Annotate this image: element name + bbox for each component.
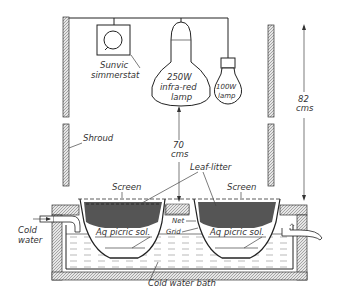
cold-water-bath-label: Cold water bath xyxy=(148,278,216,288)
shroud-label: Shroud xyxy=(83,133,114,143)
cold-water-label-line2: water xyxy=(18,235,43,245)
tullgren-funnel-apparatus-diagram: Sunvic simmerstat 250W infra-red lamp 10… xyxy=(0,0,339,298)
picric-left-label: Aq picric sol. xyxy=(95,227,150,237)
leaf-litter-pointer-left xyxy=(142,172,198,203)
shroud-pointer xyxy=(69,143,82,148)
net-label: Net xyxy=(172,217,185,225)
cold-water-label-line1: Cold xyxy=(18,225,37,235)
shroud-left-wall xyxy=(63,17,69,186)
height-82-label-line2: cms xyxy=(296,103,314,113)
infrared-lamp-label-line3: lamp xyxy=(171,92,192,102)
lamp-100w-label-line2: lamp xyxy=(218,92,236,100)
screen-right-label: Screen xyxy=(227,182,256,192)
screen-left-label: Screen xyxy=(112,182,141,192)
simmerstat-label-line1: Sunvic xyxy=(100,60,129,70)
height-70-label-line2: cms xyxy=(171,149,189,159)
shroud-right-wall xyxy=(268,25,274,186)
picric-right-label: Aq picric sol. xyxy=(209,227,264,237)
grid-pointer xyxy=(182,228,198,232)
infrared-lamp-label-line1: 250W xyxy=(167,72,192,82)
infrared-lamp-label-line2: infra-red xyxy=(160,82,197,92)
lamp-100w-label-line1: 100W xyxy=(216,83,237,91)
center-shelf-hatch xyxy=(166,204,189,214)
leaf-litter-label: Leaf-litter xyxy=(190,162,232,172)
simmerstat-label-line2: simmerstat xyxy=(91,70,140,80)
grid-label: Grid xyxy=(166,228,181,236)
